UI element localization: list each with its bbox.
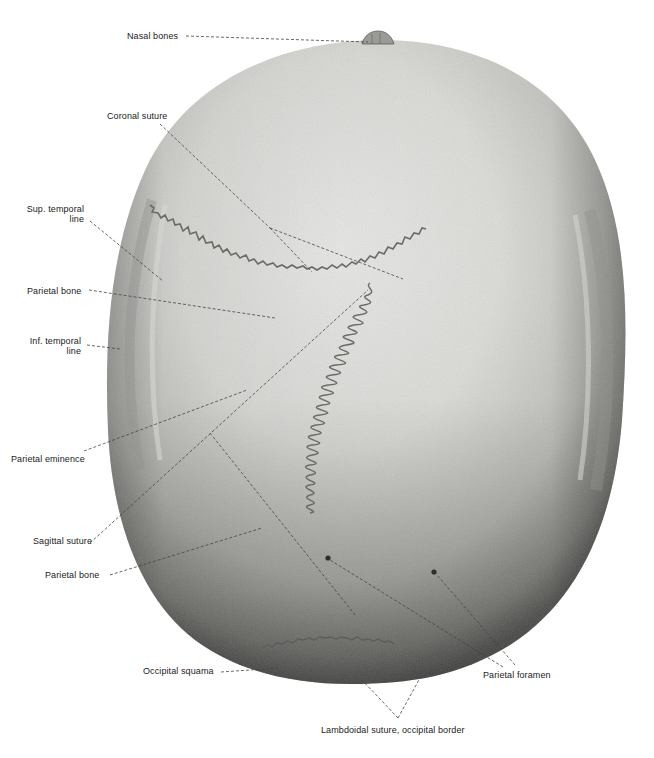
label-sup-temporal-line-1: Sup. temporal bbox=[26, 204, 84, 214]
skull-vault bbox=[100, 40, 630, 690]
label-sagittal-suture: Sagittal suture bbox=[33, 536, 92, 546]
label-inf-temporal-line-1: Inf. temporal bbox=[27, 336, 81, 346]
label-occipital-squama: Occipital squama bbox=[143, 666, 214, 676]
label-parietal-bone-upper: Parietal bone bbox=[27, 286, 81, 296]
label-nasal-bones: Nasal bones bbox=[127, 31, 178, 41]
label-parietal-foramen: Parietal foramen bbox=[483, 670, 551, 680]
label-parietal-bone-lower: Parietal bone bbox=[45, 570, 99, 580]
label-lambdoidal-suture: Lambdoidal suture, occipital border bbox=[321, 725, 465, 735]
label-parietal-eminence: Parietal eminence bbox=[11, 454, 85, 464]
parietal-foramen-right bbox=[431, 569, 436, 574]
label-inf-temporal-line: Inf. temporal line bbox=[27, 336, 81, 356]
label-coronal-suture: Coronal suture bbox=[107, 111, 167, 121]
label-sup-temporal-line: Sup. temporal line bbox=[26, 204, 84, 224]
parietal-foramen-left bbox=[325, 555, 330, 560]
skull-superior-view-illustration bbox=[0, 0, 654, 758]
label-inf-temporal-line-2: line bbox=[27, 346, 81, 356]
label-sup-temporal-line-2: line bbox=[26, 214, 84, 224]
